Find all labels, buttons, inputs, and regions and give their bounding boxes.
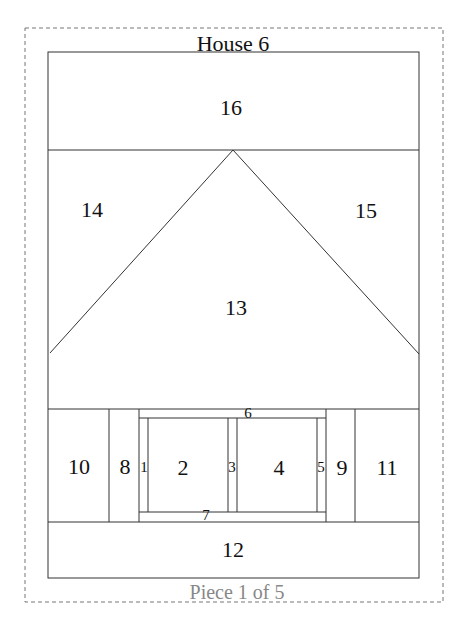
- piece-label-6: 6: [244, 406, 252, 421]
- piece-label-3: 3: [228, 460, 236, 475]
- piece-label-4: 4: [274, 457, 285, 479]
- piece-label-13: 13: [225, 297, 247, 319]
- diagram-title: House 6: [197, 33, 270, 55]
- piece-label-1: 1: [140, 460, 148, 475]
- piece-label-9: 9: [337, 457, 348, 479]
- piece-counter: Piece 1 of 5: [190, 582, 285, 602]
- piece-label-7: 7: [202, 508, 210, 523]
- piece-label-14: 14: [81, 199, 103, 221]
- roof-right-edge: [233, 150, 419, 354]
- piece-label-12: 12: [222, 539, 244, 561]
- piece-label-2: 2: [178, 457, 189, 479]
- piece-label-11: 11: [376, 457, 397, 479]
- piece-label-16: 16: [220, 97, 242, 119]
- piece-label-15: 15: [355, 200, 377, 222]
- piece-label-8: 8: [120, 456, 131, 478]
- roof-left-edge: [50, 150, 233, 353]
- piece-label-5: 5: [317, 460, 325, 475]
- piece-label-10: 10: [68, 456, 90, 478]
